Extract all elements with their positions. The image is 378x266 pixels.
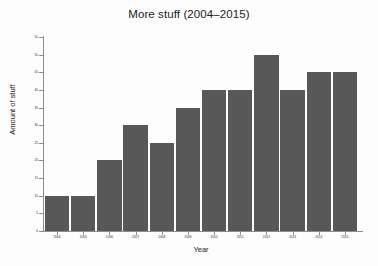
- bar: [176, 108, 200, 231]
- x-tick-label: 2008: [149, 236, 175, 239]
- x-tick-label: 2014: [306, 236, 332, 239]
- bars-layer: [0, 0, 378, 231]
- x-tick-label: 2005: [70, 236, 96, 239]
- x-axis-line: [43, 231, 363, 232]
- x-tick-label: 2004: [44, 236, 70, 239]
- x-tick-label: 2006: [96, 236, 122, 239]
- bar: [97, 160, 121, 231]
- x-tick-label: 2015: [332, 236, 358, 239]
- x-tick-label: 2009: [175, 236, 201, 239]
- x-tick-label: 2013: [280, 236, 306, 239]
- bar: [307, 72, 331, 231]
- bar: [333, 72, 357, 231]
- bar: [254, 55, 278, 231]
- x-tick-label: 2012: [253, 236, 279, 239]
- x-tick-label: 2007: [123, 236, 149, 239]
- bar: [228, 90, 252, 231]
- y-axis-label: Amount of stuff: [8, 65, 17, 155]
- bar: [150, 143, 174, 231]
- x-tick-label: 2010: [201, 236, 227, 239]
- bar: [45, 196, 69, 231]
- bar: [202, 90, 226, 231]
- bar: [71, 196, 95, 231]
- chart-figure: More stuff (2004–2015) 05101520253035404…: [0, 0, 378, 266]
- x-tick-label: 2011: [227, 236, 253, 239]
- bar: [123, 125, 147, 231]
- bar: [280, 90, 304, 231]
- x-axis-label: Year: [44, 245, 358, 254]
- y-tick-mark: [39, 231, 44, 232]
